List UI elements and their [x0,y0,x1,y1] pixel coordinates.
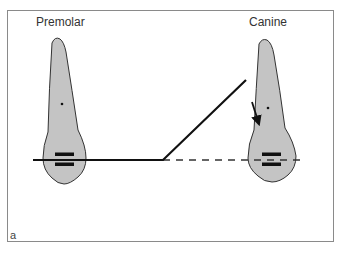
premolar-tooth [43,38,86,184]
premolar-label: Premolar [36,15,85,29]
canine-bracket-bottom [262,163,281,167]
orthodontic-diagram [0,0,345,256]
premolar-center-dot [61,103,64,106]
premolar-bracket-bottom [55,163,74,167]
canine-center-dot [267,107,270,110]
premolar-bracket-top [55,153,74,157]
canine-bracket-top [262,153,281,157]
canine-label: Canine [249,15,287,29]
panel-label: a [10,229,16,241]
